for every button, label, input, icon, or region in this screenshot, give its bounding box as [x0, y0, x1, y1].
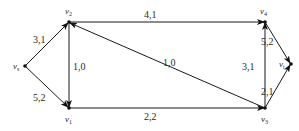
- edge-label-v1-v3: 2,2: [144, 111, 157, 122]
- node-label-vt-visible: vt: [279, 59, 285, 70]
- edge-label-v4-vt: 5,2: [261, 36, 274, 47]
- node-label-v1: v1: [65, 114, 72, 125]
- flow-network-diagram: vs v2 v1 v4 v3 vt 3,1 5,2 1,0 4,1 1,0 2,…: [0, 0, 299, 131]
- node-label-v2: v2: [65, 6, 72, 17]
- node-label-vs: vs: [13, 61, 20, 72]
- node-vt: [289, 62, 293, 66]
- edge-label-vs-v1: 5,2: [33, 92, 46, 103]
- node-v3: [263, 106, 267, 110]
- edge-label-v3-vt: 2,1: [261, 86, 274, 97]
- edge-label-v2-v1: 1,0: [73, 61, 86, 72]
- edge-vs-v2: [25, 23, 68, 66]
- node-label-v4: v4: [260, 6, 267, 17]
- node-vs: [23, 64, 27, 68]
- node-label-v3: v3: [261, 114, 268, 125]
- edge-label-vs-v2: 3,1: [33, 34, 46, 45]
- edge-label-v3-v2: 1,0: [163, 57, 176, 68]
- edge-vs-v1: [25, 66, 68, 107]
- edge-label-v3-v4: 3,1: [242, 61, 255, 72]
- node-v2: [67, 20, 71, 24]
- node-v1: [67, 106, 71, 110]
- node-v4: [263, 20, 267, 24]
- edge-label-v2-v4: 4,1: [144, 9, 157, 20]
